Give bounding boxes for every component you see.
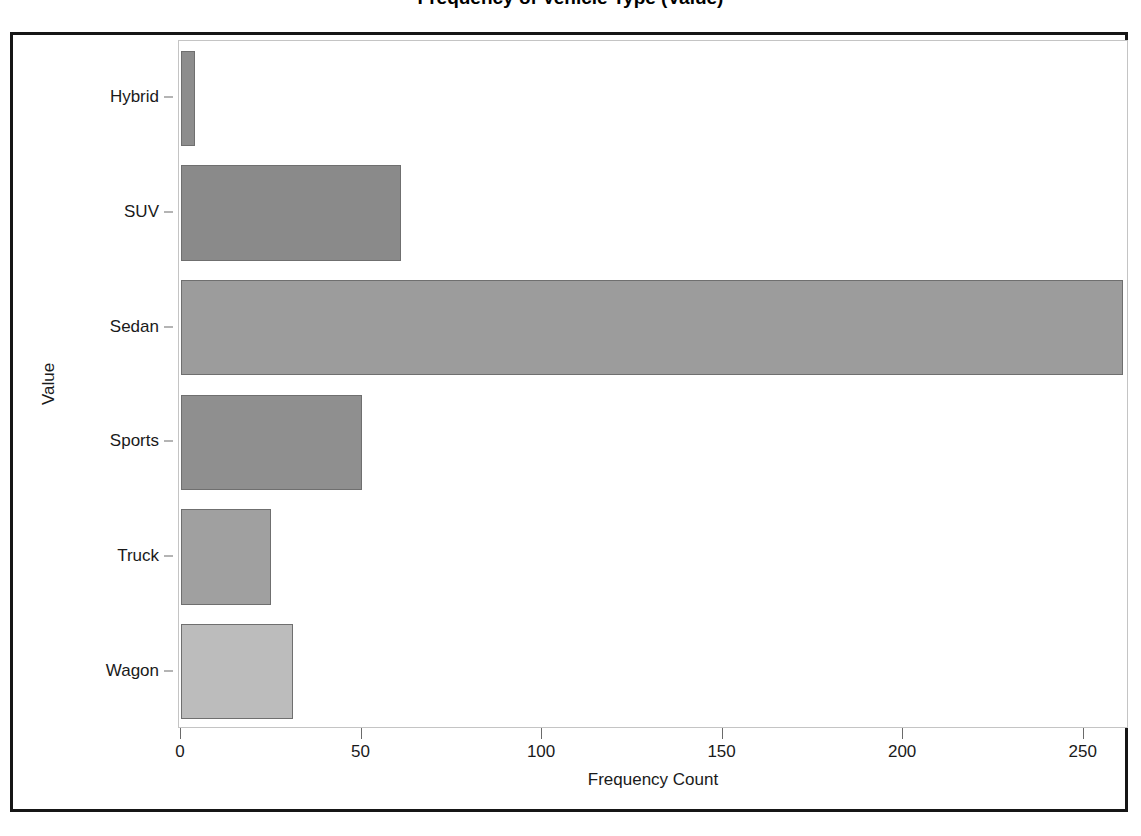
y-tick-mark	[164, 212, 173, 213]
y-tick-label-truck: Truck	[117, 546, 159, 566]
chart-outer-frame: HybridSUVSedanSportsTruckWagon Value 050…	[10, 32, 1128, 812]
bar-wagon	[181, 624, 293, 719]
x-tick-mark	[902, 728, 903, 739]
y-tick-label-sedan: Sedan	[110, 317, 159, 337]
x-axis-title: Frequency Count	[178, 770, 1128, 790]
x-tick-label-200: 200	[888, 742, 916, 762]
bars-layer	[181, 41, 1127, 727]
y-tick-mark	[164, 441, 173, 442]
x-tick-mark	[180, 728, 181, 739]
x-axis: 050100150200250	[178, 728, 1128, 768]
bar-sports	[181, 395, 362, 490]
bar-sedan	[181, 280, 1123, 375]
chart-title: Frequency of Vehicle Type (Value)	[0, 0, 1141, 9]
bar-hybrid	[181, 51, 195, 146]
y-tick-label-wagon: Wagon	[106, 661, 159, 681]
y-tick-mark	[164, 556, 173, 557]
y-axis: HybridSUVSedanSportsTruckWagon	[13, 40, 173, 728]
x-tick-label-150: 150	[707, 742, 735, 762]
bar-suv	[181, 165, 401, 260]
x-tick-mark	[541, 728, 542, 739]
bar-truck	[181, 509, 271, 604]
x-tick-mark	[1083, 728, 1084, 739]
y-tick-mark	[164, 326, 173, 327]
x-tick-mark	[361, 728, 362, 739]
x-tick-label-250: 250	[1068, 742, 1096, 762]
plot-area	[178, 40, 1128, 728]
y-tick-label-sports: Sports	[110, 431, 159, 451]
y-tick-mark	[164, 97, 173, 98]
x-tick-mark	[722, 728, 723, 739]
x-tick-label-0: 0	[175, 742, 184, 762]
y-tick-mark	[164, 670, 173, 671]
y-tick-label-suv: SUV	[124, 202, 159, 222]
y-axis-title: Value	[39, 363, 59, 405]
x-tick-label-50: 50	[351, 742, 370, 762]
x-tick-label-100: 100	[527, 742, 555, 762]
y-tick-label-hybrid: Hybrid	[110, 87, 159, 107]
chart-title-strip: Frequency of Vehicle Type (Value)	[0, 0, 1141, 30]
